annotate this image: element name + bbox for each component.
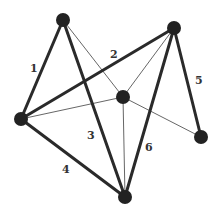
edge-label-5: 5: [195, 74, 203, 87]
node-c: [116, 90, 130, 104]
graph-svg: 1 2 3 4 5 6: [0, 0, 216, 215]
graph-diagram: 1 2 3 4 5 6: [0, 0, 216, 215]
edge-c-b: [123, 28, 174, 97]
edge-d-c: [21, 97, 123, 119]
edge-3-a-f: [63, 20, 125, 197]
edge-c-f: [123, 97, 125, 197]
node-a: [56, 13, 70, 27]
edge-1-a-d: [21, 20, 63, 119]
node-b: [167, 21, 181, 35]
edge-4-d-f: [21, 119, 125, 197]
node-e: [194, 130, 208, 144]
edge-c-e: [123, 97, 201, 137]
node-d: [14, 112, 28, 126]
node-f: [118, 190, 132, 204]
edge-label-2: 2: [110, 48, 118, 61]
edge-label-6: 6: [145, 141, 153, 154]
edge-label-4: 4: [62, 163, 70, 176]
edge-label-1: 1: [30, 62, 38, 75]
edge-label-3: 3: [87, 129, 95, 142]
